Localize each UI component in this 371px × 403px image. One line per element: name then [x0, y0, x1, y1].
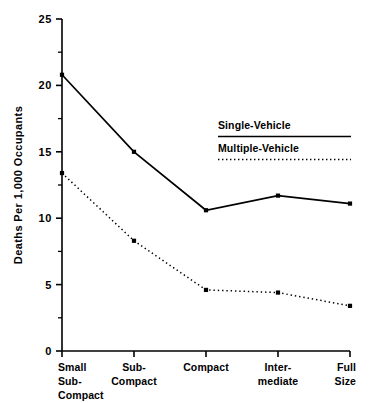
y-tick-label: 5: [45, 279, 52, 291]
line-chart: 0510152025 SmallSub-CompactSub-CompactCo…: [0, 0, 371, 403]
data-point-marker: [276, 290, 280, 294]
data-point-marker: [132, 150, 136, 154]
x-category-label-line: Inter-: [265, 361, 292, 373]
x-category-label-line: Size: [335, 375, 356, 387]
x-category-label-line: Small: [58, 361, 87, 373]
data-point-marker: [348, 304, 352, 308]
x-category-label-line: Compact: [183, 361, 229, 373]
y-axis-title: Deaths Per 1,000 Occupants: [12, 106, 24, 264]
x-category-label-line: Sub-: [58, 375, 82, 387]
data-point-marker: [276, 194, 280, 198]
y-tick-label: 25: [39, 13, 52, 25]
y-tick-label: 10: [39, 212, 52, 224]
x-category-label-line: Compact: [111, 375, 157, 387]
y-tick-label: 0: [45, 345, 52, 357]
chart-background: [0, 0, 371, 403]
chart-container: 0510152025 SmallSub-CompactSub-CompactCo…: [0, 0, 371, 403]
x-category-label-line: Full: [337, 361, 356, 373]
data-point-marker: [204, 208, 208, 212]
data-point-marker: [132, 239, 136, 243]
x-category-label-line: Sub-: [122, 361, 146, 373]
legend-label-single-vehicle: Single-Vehicle: [218, 119, 291, 131]
data-point-marker: [204, 288, 208, 292]
data-point-marker: [348, 201, 352, 205]
y-tick-label: 15: [39, 146, 52, 158]
y-tick-label: 20: [39, 79, 52, 91]
legend-label-multiple-vehicle: Multiple-Vehicle: [218, 142, 299, 154]
x-category-label-line: Compact: [58, 389, 104, 401]
x-category-label-line: mediate: [258, 375, 298, 387]
data-point-marker: [60, 171, 64, 175]
data-point-marker: [60, 73, 64, 77]
